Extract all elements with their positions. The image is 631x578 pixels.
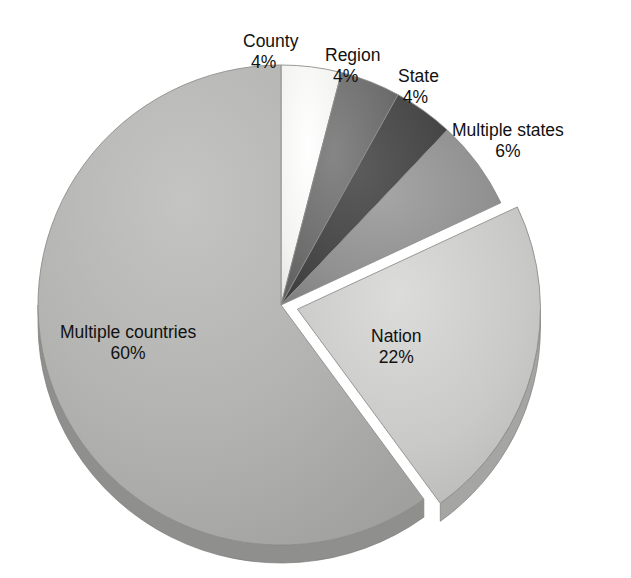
slice-label-county-name: County (243, 31, 298, 52)
slice-label-multiple-states-name: Multiple states (452, 120, 564, 141)
slice-label-nation-value: 22% (371, 347, 422, 368)
slice-label-state: State 4% (398, 66, 439, 107)
slice-label-county-value: 4% (243, 52, 298, 73)
slice-label-nation-name: Nation (371, 326, 422, 347)
pie-chart: County 4% Region 4% State 4% Multiple st… (0, 0, 631, 578)
slice-label-region-value: 4% (325, 66, 380, 87)
slice-label-state-value: 4% (398, 87, 439, 108)
slice-label-region: Region 4% (325, 45, 380, 86)
slice-label-county: County 4% (243, 31, 298, 72)
slice-label-region-name: Region (325, 45, 380, 66)
slice-label-multiple-states: Multiple states 6% (452, 120, 564, 161)
pie-chart-canvas (0, 0, 631, 578)
slice-label-multiple-countries: Multiple countries 60% (60, 322, 196, 363)
slice-label-multiple-countries-value: 60% (60, 343, 196, 364)
slice-label-nation: Nation 22% (371, 326, 422, 367)
slice-label-multiple-states-value: 6% (452, 141, 564, 162)
slice-label-state-name: State (398, 66, 439, 87)
slice-label-multiple-countries-name: Multiple countries (60, 322, 196, 343)
